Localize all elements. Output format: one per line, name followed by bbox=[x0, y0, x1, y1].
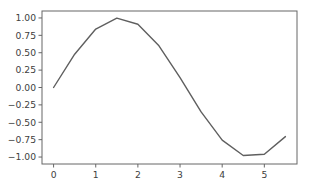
x-tick-label: 0 bbox=[51, 169, 57, 180]
y-tick-label: 0.25 bbox=[16, 64, 37, 75]
x-tick-label: 2 bbox=[135, 169, 141, 180]
axes-background bbox=[42, 11, 297, 164]
y-tick-label: −0.75 bbox=[8, 134, 36, 145]
x-tick-label: 5 bbox=[261, 169, 267, 180]
x-tick-label: 3 bbox=[177, 169, 183, 180]
x-tick-label: 1 bbox=[93, 169, 99, 180]
plot-canvas: 012345 1.000.750.500.250.00−0.25−0.50−0.… bbox=[0, 0, 312, 189]
y-tick-label: −0.50 bbox=[8, 117, 36, 128]
y-tick-label: 0.75 bbox=[16, 30, 37, 41]
y-tick-label: 1.00 bbox=[16, 12, 37, 23]
y-tick-label: 0.50 bbox=[16, 47, 37, 58]
y-tick-label: 0.00 bbox=[16, 82, 37, 93]
x-tick-label: 4 bbox=[219, 169, 225, 180]
y-tick-label: −1.00 bbox=[8, 151, 36, 162]
matplotlib-figure: 012345 1.000.750.500.250.00−0.25−0.50−0.… bbox=[0, 0, 312, 189]
y-tick-label: −0.25 bbox=[8, 99, 36, 110]
